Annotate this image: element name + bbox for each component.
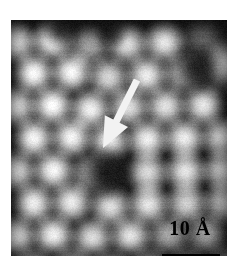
- scale-bar-line: [162, 254, 220, 256]
- stm-figure: 10 Å: [0, 0, 243, 267]
- scale-bar: 10 Å: [152, 216, 227, 256]
- stm-micrograph-panel: 10 Å: [11, 20, 227, 256]
- scale-bar-label: 10 Å: [152, 216, 227, 240]
